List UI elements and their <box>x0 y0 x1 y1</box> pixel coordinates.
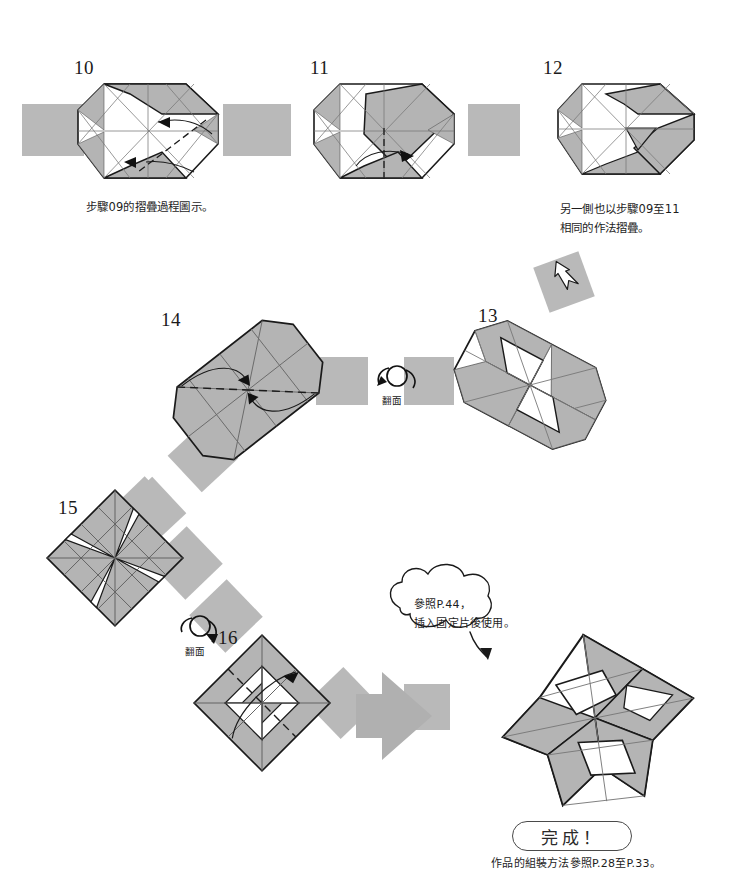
completion-badge: 完成！ <box>512 821 632 851</box>
final-model-figure <box>0 0 741 872</box>
completion-note: 作品的組裝方法參照P.28至P.33。 <box>451 856 701 871</box>
instruction-sheet: 10 步驟09的摺疊過程圖示。 11 <box>0 0 741 872</box>
final-crease-7 <box>563 794 644 807</box>
